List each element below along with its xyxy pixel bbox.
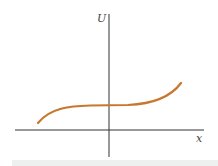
y-axis-label: U: [97, 12, 107, 25]
potential-energy-diagram: U x: [0, 0, 218, 166]
x-axis-label: x: [196, 132, 203, 145]
bottom-strip: [12, 160, 218, 166]
